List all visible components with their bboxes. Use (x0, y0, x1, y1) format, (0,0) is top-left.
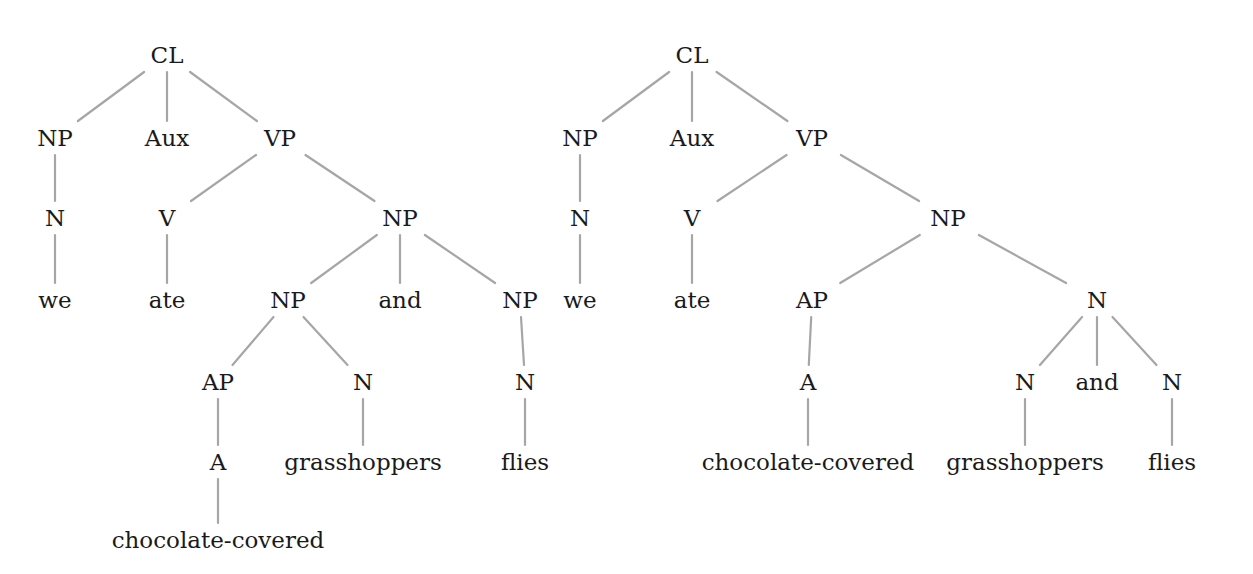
tree-node-n: N (353, 371, 373, 394)
tree-node-np: NP (502, 289, 538, 312)
tree-edges (0, 0, 1253, 574)
tree-node-vp: VP (796, 127, 828, 150)
tree-edge (521, 317, 524, 365)
tree-node-a: A (210, 451, 227, 474)
tree-node-np: NP (382, 207, 418, 230)
tree-edge (78, 72, 144, 121)
tree-edge (841, 155, 919, 201)
tree-node-ate: ate (674, 289, 711, 312)
tree-node-aux: Aux (670, 127, 714, 150)
tree-node-vp: VP (264, 127, 296, 150)
tree-node-np: NP (930, 207, 966, 230)
tree-node-n: N (515, 371, 535, 394)
tree-edge (603, 72, 669, 121)
tree-node-n: N (570, 207, 590, 230)
tree-edge (306, 155, 375, 201)
tree-edge (1113, 317, 1157, 365)
tree-node-chocolate-covered: chocolate-covered (702, 451, 915, 474)
tree-node-aux: Aux (145, 127, 189, 150)
tree-node-we: we (38, 289, 71, 312)
tree-node-ap: AP (796, 289, 828, 312)
tree-node-n: N (1162, 371, 1182, 394)
tree-node-flies: flies (1148, 451, 1196, 474)
tree-node-v: V (159, 207, 176, 230)
tree-node-cl: CL (676, 44, 709, 67)
tree-edge (718, 155, 787, 201)
tree-node-a: A (800, 371, 817, 394)
tree-edge (979, 235, 1066, 283)
tree-node-ap: AP (202, 371, 234, 394)
tree-edge (717, 72, 788, 121)
tree-node-np: NP (37, 127, 73, 150)
tree-edge (840, 235, 920, 283)
tree-node-grasshoppers: grasshoppers (284, 451, 442, 474)
tree-edge (191, 155, 256, 201)
tree-node-and: and (378, 289, 421, 312)
tree-node-n: N (45, 207, 65, 230)
tree-node-n: N (1087, 289, 1107, 312)
tree-node-flies: flies (501, 451, 549, 474)
tree-edge (190, 72, 257, 121)
tree-node-n: N (1015, 371, 1035, 394)
syntax-tree-diagram: CLNPAuxVPNVNPweateNPandNPAPNNAgrasshoppe… (0, 0, 1253, 574)
tree-node-we: we (563, 289, 596, 312)
tree-edge (1040, 317, 1082, 365)
tree-edge (425, 235, 495, 283)
tree-node-ate: ate (149, 289, 186, 312)
tree-node-v: V (684, 207, 701, 230)
tree-edge (311, 235, 377, 283)
tree-node-and: and (1075, 371, 1118, 394)
tree-edge (233, 317, 274, 365)
tree-node-chocolate-covered: chocolate-covered (112, 529, 325, 552)
tree-edge (304, 317, 348, 365)
tree-node-np: NP (270, 289, 306, 312)
tree-node-np: NP (562, 127, 598, 150)
tree-node-grasshoppers: grasshoppers (946, 451, 1104, 474)
tree-node-cl: CL (151, 44, 184, 67)
tree-edge (809, 317, 811, 365)
